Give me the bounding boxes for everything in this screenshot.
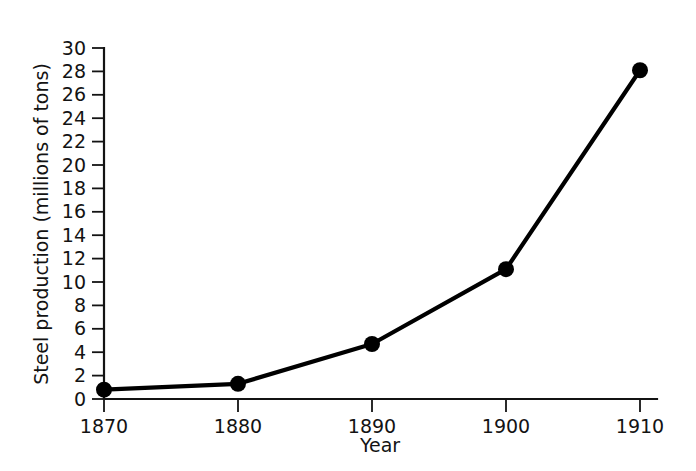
x-tick-label: 1880: [214, 415, 262, 437]
y-tick-label: 26: [62, 83, 86, 105]
y-tick-label: 28: [62, 60, 86, 82]
y-tick-label: 16: [62, 200, 86, 222]
y-axis-title: Steel production (millions of tons): [30, 63, 52, 385]
y-tick-label: 20: [62, 154, 86, 176]
y-tick-label: 0: [74, 388, 86, 410]
y-tick-label: 10: [62, 271, 86, 293]
line-chart-plot: 024681012141618202224262830 187018801890…: [0, 0, 696, 471]
x-tick-label: 1900: [482, 415, 530, 437]
chart-container: 024681012141618202224262830 187018801890…: [0, 0, 696, 471]
data-point-marker: [364, 336, 380, 352]
data-point-marker: [96, 382, 112, 398]
y-tick-label: 24: [62, 107, 86, 129]
y-tick-label: 14: [62, 224, 86, 246]
y-tick-label: 2: [74, 364, 86, 386]
y-tick-label: 8: [74, 294, 86, 316]
y-tick-label: 18: [62, 177, 86, 199]
y-tick-label: 6: [74, 317, 86, 339]
data-point-marker: [498, 261, 514, 277]
y-tick-label: 30: [62, 37, 86, 59]
x-tick-label: 1870: [80, 415, 128, 437]
x-tick-label: 1910: [616, 415, 664, 437]
data-point-marker: [632, 62, 648, 78]
data-point-marker: [230, 376, 246, 392]
y-tick-label: 22: [62, 130, 86, 152]
y-tick-label: 12: [62, 247, 86, 269]
x-axis-title: Year: [359, 434, 400, 456]
y-tick-label: 4: [74, 341, 86, 363]
